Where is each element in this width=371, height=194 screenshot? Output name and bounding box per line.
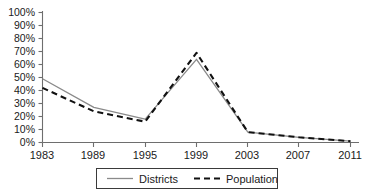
x-tick-label-1999: 1999 xyxy=(184,149,208,161)
x-tick-label-2003: 2003 xyxy=(235,149,259,161)
plot-series-group xyxy=(43,53,351,141)
x-axis-group: 1983 1989 1995 1999 2003 2007 2011 xyxy=(30,143,362,162)
series-line-districts xyxy=(43,59,351,141)
legend: Districts Population xyxy=(97,169,279,189)
y-tick-label-0: 0% xyxy=(20,136,35,148)
y-tick-label-30: 30% xyxy=(14,97,35,109)
line-chart: 100% 90% 80% 70% 60% 50% 40% 30% 20% 10%… xyxy=(0,0,371,194)
x-tick-label-2007: 2007 xyxy=(286,149,310,161)
y-tick-label-70: 70% xyxy=(14,45,35,57)
legend-label-districts: Districts xyxy=(139,173,179,185)
y-tick-label-80: 80% xyxy=(14,32,35,44)
y-tick-label-40: 40% xyxy=(14,84,35,96)
y-tick-label-100: 100% xyxy=(8,6,35,18)
y-tick-label-90: 90% xyxy=(14,19,35,31)
y-tick-label-20: 20% xyxy=(14,110,35,122)
y-tick-label-10: 10% xyxy=(14,123,35,135)
y-axis-group: 100% 90% 80% 70% 60% 50% 40% 30% 20% 10%… xyxy=(8,6,42,148)
series-line-population xyxy=(43,53,351,141)
x-tick-label-1995: 1995 xyxy=(133,149,157,161)
x-tick-label-1989: 1989 xyxy=(81,149,105,161)
chart-canvas: 100% 90% 80% 70% 60% 50% 40% 30% 20% 10%… xyxy=(0,0,371,194)
y-tick-label-50: 50% xyxy=(14,71,35,83)
legend-label-population: Population xyxy=(226,173,278,185)
x-tick-label-2011: 2011 xyxy=(338,149,362,161)
y-tick-label-60: 60% xyxy=(14,58,35,70)
x-tick-label-1983: 1983 xyxy=(30,149,54,161)
